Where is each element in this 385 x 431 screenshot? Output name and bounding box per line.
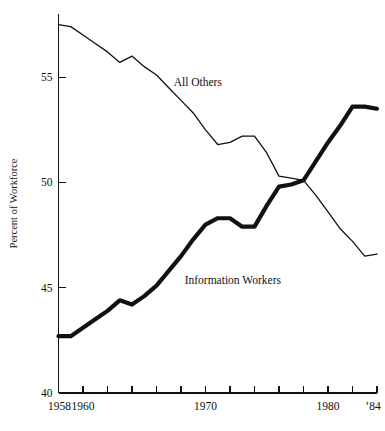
y-axis-tick-labels: 40455055 (41, 71, 53, 399)
x-tick-label: ’84 (365, 400, 381, 412)
series-lines (59, 25, 378, 337)
x-axis-ticks (83, 386, 377, 393)
y-tick-label: 40 (41, 387, 53, 399)
y-axis-title: Percent of Workforce (8, 158, 19, 248)
series-label-all-others: All Others (174, 76, 223, 88)
x-tick-label: 1970 (194, 400, 217, 412)
y-tick-label: 55 (41, 71, 53, 83)
x-axis: 1958196019701980’84 (48, 386, 381, 412)
x-tick-label: 1960 (72, 400, 95, 412)
series-line-information-workers (59, 107, 378, 337)
y-tick-label: 50 (41, 176, 53, 188)
y-axis-ticks (59, 77, 66, 393)
x-tick-label: 1980 (317, 400, 340, 412)
x-axis-tick-labels: 1958196019701980’84 (48, 400, 381, 412)
x-tick-label: 1958 (48, 400, 71, 412)
y-tick-label: 45 (41, 282, 53, 294)
y-axis: 40455055 (41, 14, 66, 399)
chart-container: 40455055 1958196019701980’84 Percent of … (0, 0, 385, 431)
series-label-information-workers: Information Workers (185, 274, 282, 286)
line-chart: 40455055 1958196019701980’84 Percent of … (0, 0, 385, 431)
